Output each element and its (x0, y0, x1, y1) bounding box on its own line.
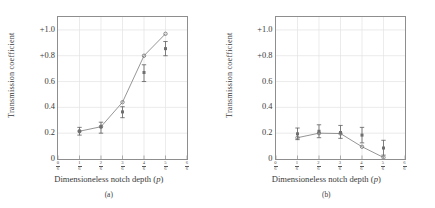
panel-caption-a: (a) (0, 190, 218, 199)
x-tick-label: 66 (185, 161, 189, 172)
figure: Transmission coefficient 00.20.40.6+0.8+… (0, 0, 435, 208)
x-tick-label: 46 (360, 161, 364, 172)
x-tick-label: 06 (274, 161, 278, 172)
x-tick-label: 56 (164, 161, 168, 172)
y-tick-label: 0.4 (21, 103, 55, 111)
y-tick-label: 0.2 (21, 129, 55, 137)
panel-a: Transmission coefficient 00.20.40.6+0.8+… (0, 0, 218, 208)
x-tick-label: 36 (338, 161, 342, 172)
y-tick-label: 0 (21, 155, 55, 163)
y-axis-title-a: Transmission coefficient (4, 0, 18, 150)
y-tick-label: +1.0 (239, 26, 273, 34)
x-axis-title-text-b: Dimensioneless notch depth ( (272, 174, 374, 184)
y-axis-title-b: Transmission coefficient (222, 0, 236, 150)
y-tick-labels-a: 00.20.40.6+0.8+1.0 (19, 16, 55, 160)
x-tick-label: 16 (78, 161, 82, 172)
y-tick-label: 0.6 (21, 77, 55, 85)
y-tick-label: 0.6 (239, 77, 273, 85)
y-tick-label: 0.2 (239, 129, 273, 137)
x-axis-title-b: Dimensioneless notch depth (p) (218, 174, 435, 184)
plot-area-a (57, 16, 188, 160)
x-axis-title-a: Dimensioneless notch depth (p) (0, 174, 218, 184)
x-tick-label: 46 (142, 161, 146, 172)
x-tick-label: 66 (403, 161, 407, 172)
x-tick-label: 06 (56, 161, 60, 172)
y-tick-label: 0 (239, 155, 273, 163)
x-tick-label: 26 (99, 161, 103, 172)
x-tick-label: 36 (121, 161, 125, 172)
y-tick-label: +0.8 (21, 52, 55, 60)
x-tick-label: 56 (381, 161, 385, 172)
y-tick-label: +0.8 (239, 52, 273, 60)
plot-svg-b (276, 17, 405, 159)
y-tick-labels-b: 00.20.40.6+0.8+1.0 (237, 16, 273, 160)
panel-caption-b: (b) (218, 190, 435, 199)
plot-area-b (275, 16, 406, 160)
x-tick-label: 16 (295, 161, 299, 172)
y-tick-label: 0.4 (239, 103, 273, 111)
plot-svg-a (58, 17, 187, 159)
x-axis-title-tail-a: ) (160, 174, 163, 184)
y-tick-label: +1.0 (21, 26, 55, 34)
panel-b: Transmission coefficient 00.20.40.6+0.8+… (218, 0, 435, 208)
x-axis-title-text-a: Dimensioneless notch depth ( (54, 174, 156, 184)
x-tick-label: 26 (317, 161, 321, 172)
x-axis-title-tail-b: ) (378, 174, 381, 184)
